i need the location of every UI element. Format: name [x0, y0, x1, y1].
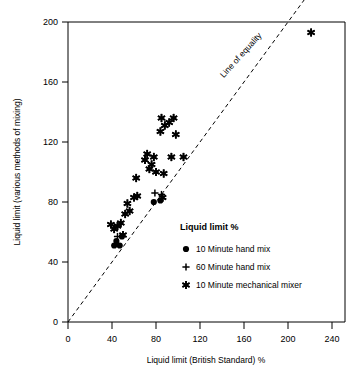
x-ticklabel-0: 0 [65, 334, 70, 344]
x-axis-tick-labels: 0 40 80 120 160 200 240 [65, 334, 339, 344]
data-point-2-17 [157, 127, 164, 135]
y-ticklabel-120: 120 [43, 137, 58, 147]
x-ticklabel-200: 200 [280, 334, 295, 344]
y-ticklabel-40: 40 [48, 257, 58, 267]
y-axis-title: Liquid limit (various methods of mixing) [12, 98, 22, 245]
x-ticklabel-240: 240 [324, 334, 339, 344]
data-point-2-26 [180, 153, 187, 161]
plot-frame [68, 22, 345, 322]
legend-glyph-1 [182, 263, 189, 270]
data-point-2-15 [150, 153, 157, 161]
y-ticklabel-160: 160 [43, 77, 58, 87]
y-ticklabel-200: 200 [43, 17, 58, 27]
data-point-2-25 [172, 130, 179, 138]
data-point-2-16 [152, 168, 159, 176]
legend-marker-plus [182, 263, 189, 270]
legend-glyph-0 [183, 246, 189, 252]
data-point-2-27 [308, 28, 315, 36]
chart-canvas: 0 40 80 120 160 200 0 40 80 120 160 200 … [0, 0, 358, 377]
line-of-equality [68, 0, 332, 322]
legend-label-1: 60 Minute hand mix [196, 262, 271, 272]
x-axis-title: Liquid limit (British Standard) % [147, 355, 266, 365]
data-point-0-2 [151, 199, 157, 205]
legend-title: Liquid limit % [180, 222, 239, 232]
data-point-2-23 [168, 153, 175, 161]
scatter-chart: 0 40 80 120 160 200 0 40 80 120 160 200 … [0, 0, 358, 377]
x-ticklabel-120: 120 [192, 334, 207, 344]
legend-label-0: 10 Minute hand mix [196, 244, 271, 254]
legend-marker-asterisk [182, 281, 189, 289]
data-point-layer [107, 28, 314, 248]
y-axis-tick-labels: 0 40 80 120 160 200 [43, 17, 58, 327]
legend: Liquid limit % 10 Minute hand mix 60 Min… [180, 222, 302, 290]
x-ticklabel-40: 40 [107, 334, 117, 344]
x-ticklabel-160: 160 [236, 334, 251, 344]
data-point-2-20 [160, 169, 167, 177]
data-point-2-10 [133, 174, 140, 182]
legend-marker-filled-circle [183, 246, 189, 252]
data-point-1-1 [151, 189, 158, 196]
data-point-2-18 [158, 114, 165, 122]
line-of-equality-label: Line of equality [218, 30, 264, 80]
data-point-2-6 [124, 199, 131, 207]
x-axis-ticks [68, 322, 332, 329]
legend-label-2: 10 Minute mechanical mixer [196, 280, 302, 290]
legend-glyph-2 [182, 281, 189, 289]
data-point-0-4 [113, 238, 119, 244]
x-ticklabel-80: 80 [151, 334, 161, 344]
y-ticklabel-0: 0 [53, 317, 58, 327]
y-axis-ticks [62, 22, 68, 322]
y-ticklabel-80: 80 [48, 197, 58, 207]
